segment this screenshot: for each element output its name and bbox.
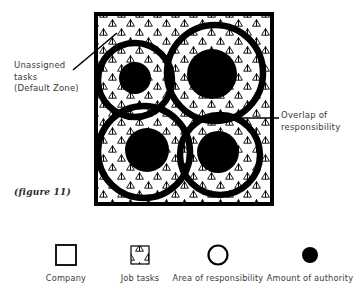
square-outline-icon	[56, 245, 76, 265]
triangle-pattern-icon	[131, 246, 149, 264]
legend-label-amount-of-authority: Amount of authority	[255, 273, 357, 283]
legend-icons-svg	[0, 0, 357, 293]
figure-canvas: Unassigned tasks (Default Zone) Overlap …	[0, 0, 357, 293]
circle-outline-icon	[209, 246, 228, 265]
filled-circle-icon	[302, 247, 318, 263]
